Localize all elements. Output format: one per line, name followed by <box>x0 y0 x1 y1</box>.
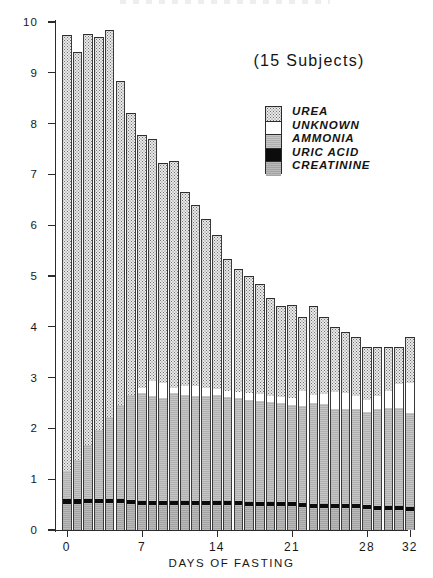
y-tick-9 <box>48 72 55 73</box>
y-tick-8 <box>48 123 55 124</box>
bar-segment-ammonia-day-10 <box>169 393 179 501</box>
bar-segment-urea-day-2 <box>83 34 93 445</box>
bar-segment-creatinine-day-20 <box>276 506 286 530</box>
bar-segment-creatinine-day-4 <box>105 503 115 530</box>
bar-segment-creatinine-day-6 <box>126 504 136 530</box>
bar-segment-uric_acid-day-13 <box>201 501 211 505</box>
x-tick-label-32: 32 <box>390 540 430 554</box>
bar-day-32 <box>405 22 415 530</box>
bar-segment-creatinine-day-12 <box>191 505 201 530</box>
bar-day-8 <box>148 22 158 530</box>
bar-day-12 <box>191 22 201 530</box>
bar-segment-unknown-day-17 <box>244 393 254 400</box>
bar-segment-creatinine-day-5 <box>116 503 126 530</box>
bar-segment-creatinine-day-15 <box>223 505 233 530</box>
bar-segment-urea-day-22 <box>298 317 308 391</box>
bar-segment-ammonia-day-31 <box>394 408 404 506</box>
bar-segment-unknown-day-30 <box>384 391 394 408</box>
y-tick-label-0: 0 <box>4 525 38 535</box>
bar-segment-uric_acid-day-26 <box>341 504 351 508</box>
x-tick-21 <box>292 530 293 537</box>
bar-segment-urea-day-31 <box>394 347 404 384</box>
bar-segment-creatinine-day-25 <box>330 508 340 530</box>
bar-segment-unknown-day-27 <box>351 396 361 409</box>
cropped-caption-strip <box>120 0 330 4</box>
bar-day-15 <box>223 22 233 530</box>
bar-segment-unknown-day-19 <box>266 396 276 402</box>
bar-segment-urea-day-0 <box>62 35 72 471</box>
bar-segment-uric_acid-day-6 <box>126 500 136 504</box>
bar-segment-ammonia-day-26 <box>341 409 351 503</box>
y-tick-4 <box>48 326 55 327</box>
y-tick-label-10: 10 <box>4 17 38 27</box>
bar-segment-uric_acid-day-24 <box>319 504 329 508</box>
bar-segment-urea-day-3 <box>94 37 104 430</box>
bar-segment-uric_acid-day-7 <box>137 501 147 505</box>
bar-segment-urea-day-5 <box>116 81 126 404</box>
x-tick-label-0: 0 <box>47 540 87 554</box>
bar-day-4 <box>105 22 115 530</box>
bar-segment-unknown-day-20 <box>276 397 286 403</box>
bar-segment-ammonia-day-13 <box>201 396 211 501</box>
bar-day-5 <box>116 22 126 530</box>
bar-segment-ammonia-day-7 <box>137 393 147 501</box>
x-tick-label-7: 7 <box>122 540 162 554</box>
bar-segment-creatinine-day-7 <box>137 505 147 530</box>
bar-segment-ammonia-day-32 <box>405 413 415 506</box>
bar-day-27 <box>351 22 361 530</box>
bar-segment-uric_acid-day-11 <box>180 501 190 505</box>
bar-segment-unknown-day-24 <box>319 394 329 404</box>
bar-segment-unknown-day-15 <box>223 391 233 397</box>
bar-segment-ammonia-day-29 <box>373 409 383 506</box>
y-tick-label-9: 9 <box>4 68 38 78</box>
bar-segment-urea-day-4 <box>105 30 115 418</box>
bar-segment-ammonia-day-18 <box>255 401 265 502</box>
bar-segment-uric_acid-day-10 <box>169 501 179 505</box>
bar-segment-urea-day-25 <box>330 327 340 392</box>
y-tick-label-1: 1 <box>4 474 38 484</box>
bar-day-1 <box>73 22 83 530</box>
bar-segment-creatinine-day-13 <box>201 505 211 530</box>
bar-day-7 <box>137 22 147 530</box>
bar-segment-ammonia-day-22 <box>298 406 308 503</box>
bar-segment-unknown-day-31 <box>394 384 404 408</box>
bar-day-10 <box>169 22 179 530</box>
bar-segment-uric_acid-day-19 <box>266 502 276 506</box>
bar-day-24 <box>319 22 329 530</box>
bar-segment-uric_acid-day-18 <box>255 502 265 506</box>
plot-area <box>56 22 408 530</box>
bar-segment-unknown-day-23 <box>309 395 319 403</box>
x-axis-line <box>55 530 408 531</box>
bar-segment-urea-day-15 <box>223 259 233 391</box>
bar-day-13 <box>201 22 211 530</box>
bar-segment-unknown-day-14 <box>212 389 222 395</box>
bar-segment-ammonia-day-12 <box>191 396 201 501</box>
bar-segment-creatinine-day-0 <box>62 504 72 530</box>
bar-segment-unknown-day-18 <box>255 394 265 401</box>
bar-segment-unknown-day-16 <box>234 392 244 398</box>
bar-segment-uric_acid-day-28 <box>362 505 372 509</box>
bar-segment-uric_acid-day-4 <box>105 499 115 503</box>
bar-segment-ammonia-day-23 <box>309 403 319 504</box>
bar-segment-uric_acid-day-3 <box>94 499 104 503</box>
bar-segment-uric_acid-day-5 <box>116 499 126 503</box>
bar-segment-ammonia-day-24 <box>319 404 329 504</box>
y-tick-0 <box>48 529 55 530</box>
bar-segment-urea-day-32 <box>405 337 415 383</box>
x-axis-label: DAYS OF FASTING <box>55 557 408 569</box>
bar-day-22 <box>298 22 308 530</box>
bar-segment-uric_acid-day-23 <box>309 504 319 508</box>
bar-segment-unknown-day-29 <box>373 396 383 409</box>
figure-root: (15 Subjects) UREAUNKNOWNAMMONIAURIC ACI… <box>0 0 433 578</box>
bar-segment-uric_acid-day-15 <box>223 501 233 505</box>
bar-segment-creatinine-day-22 <box>298 507 308 530</box>
y-axis-label-wrap: GRAMS / 24 HOURS <box>10 180 30 380</box>
bar-segment-urea-day-12 <box>191 205 201 386</box>
bar-segment-urea-day-20 <box>276 306 286 396</box>
bar-segment-urea-day-9 <box>158 163 168 383</box>
y-tick-label-2: 2 <box>4 423 38 433</box>
bar-segment-creatinine-day-17 <box>244 506 254 530</box>
y-tick-2 <box>48 428 55 429</box>
bar-segment-urea-day-16 <box>234 269 244 392</box>
bar-segment-creatinine-day-18 <box>255 506 265 530</box>
